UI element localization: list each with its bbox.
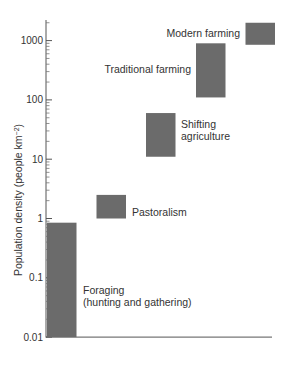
bar-1 [97,195,127,219]
bar-0 [47,223,77,337]
y-tick-label: 0.01 [24,332,44,343]
bar-label: agriculture [181,130,230,142]
bar-label: Modern farming [166,27,240,39]
population-density-chart: 0.010.11101001000 Foraging(hunting and g… [0,0,283,368]
y-axis-label-main: Population density (people km [12,135,24,276]
y-tick-label: 0.1 [29,272,43,283]
y-tick-label: 1000 [21,35,44,46]
bar-label: Traditional farming [104,63,191,75]
bar-4 [246,23,276,45]
y-tick-label: 1 [37,213,43,224]
y-axis-label-close: ) [12,124,24,128]
y-axis-label: Population density (people km−2) [12,124,24,276]
y-tick-label: 10 [32,154,44,165]
y-tick-label: 100 [26,94,43,105]
bar-label: Shifting [181,118,216,130]
y-axis-label-sup: −2 [13,127,20,135]
bar-label: Foraging [83,284,125,296]
bar-label: Pastoralism [132,206,187,218]
bar-label: (hunting and gathering) [83,296,192,308]
bar-2 [146,113,176,157]
bar-3 [196,43,226,97]
